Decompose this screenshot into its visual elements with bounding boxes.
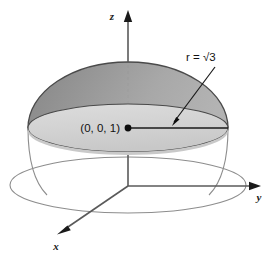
center-point-marker	[125, 125, 132, 132]
z-axis-arrowhead	[124, 10, 132, 22]
diagram-canvas: (0, 0, 1) r = √3 z y x	[0, 0, 270, 257]
z-axis-label: z	[109, 10, 115, 22]
x-axis	[57, 186, 128, 235]
radius-label: r = √3	[186, 51, 216, 63]
y-axis-arrowhead	[249, 182, 261, 190]
z-axis	[124, 10, 132, 62]
y-axis-label: y	[255, 191, 262, 203]
hemisphere-diagram: (0, 0, 1) r = √3 z y x	[0, 0, 270, 257]
x-axis-line	[65, 186, 128, 229]
center-point-label: (0, 0, 1)	[80, 122, 120, 134]
y-axis	[128, 182, 261, 190]
x-axis-label: x	[52, 240, 59, 252]
